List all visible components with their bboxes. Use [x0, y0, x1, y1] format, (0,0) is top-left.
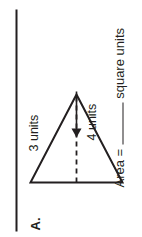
problem-label: A.: [27, 217, 42, 230]
answer-suffix: square units: [111, 28, 126, 99]
worksheet-screenshot: A. 3 units 4 units Area = square units: [0, 0, 142, 237]
answer-prefix: Area =: [111, 148, 126, 187]
answer-line: Area = square units: [110, 28, 126, 188]
answer-blank-input[interactable]: [110, 102, 123, 144]
section-divider-rule: [15, 9, 17, 231]
worksheet-page: A. 3 units 4 units Area = square units: [0, 0, 142, 237]
height-arrow-head: [71, 128, 81, 137]
height-label: 3 units: [26, 114, 40, 151]
base-label: 4 units: [84, 103, 98, 140]
